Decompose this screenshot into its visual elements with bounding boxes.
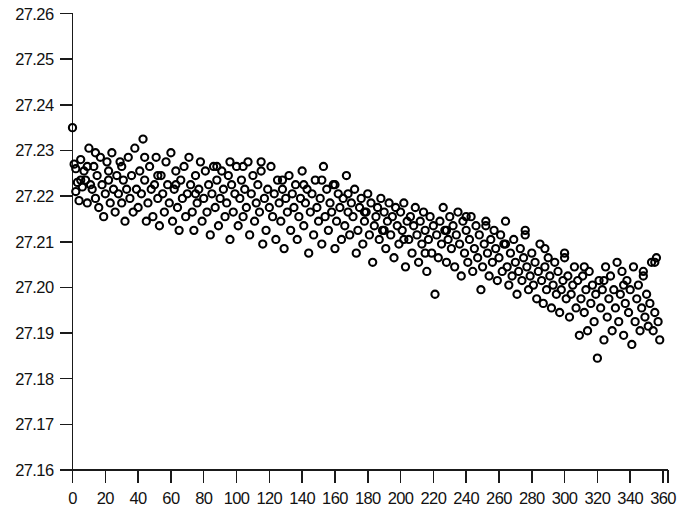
data-point xyxy=(239,213,246,220)
data-point xyxy=(180,163,187,170)
data-point xyxy=(377,195,384,202)
y-tick-label: 27.22 xyxy=(15,187,54,205)
data-point xyxy=(92,195,99,202)
data-point xyxy=(576,332,583,339)
data-point xyxy=(638,304,645,311)
data-point xyxy=(102,190,109,197)
data-point xyxy=(253,199,260,206)
data-point xyxy=(123,186,130,193)
data-point xyxy=(262,227,269,234)
data-point xyxy=(187,181,194,188)
data-point xyxy=(577,295,584,302)
data-point xyxy=(399,227,406,234)
data-point xyxy=(618,268,625,275)
data-point xyxy=(167,149,174,156)
x-tick-label: 120 xyxy=(256,489,282,507)
data-point xyxy=(197,158,204,165)
data-point xyxy=(581,263,588,270)
data-point xyxy=(551,259,558,266)
data-point xyxy=(422,227,429,234)
data-point xyxy=(654,318,661,325)
data-point xyxy=(448,245,455,252)
data-point xyxy=(136,167,143,174)
data-point xyxy=(272,236,279,243)
data-point xyxy=(341,222,348,229)
data-point xyxy=(207,231,214,238)
data-point xyxy=(205,181,212,188)
data-point xyxy=(651,309,658,316)
data-point xyxy=(443,259,450,266)
data-point xyxy=(541,263,548,270)
data-point xyxy=(620,332,627,339)
data-point xyxy=(325,227,332,234)
data-point xyxy=(515,268,522,275)
data-point xyxy=(92,149,99,156)
data-point xyxy=(213,177,220,184)
data-point xyxy=(528,250,535,257)
data-point xyxy=(108,149,115,156)
data-point xyxy=(238,177,245,184)
data-point xyxy=(530,282,537,289)
data-point xyxy=(477,286,484,293)
data-point xyxy=(641,313,648,320)
data-point xyxy=(568,291,575,298)
data-point xyxy=(281,245,288,252)
data-point xyxy=(454,208,461,215)
data-point xyxy=(94,172,101,179)
data-point xyxy=(584,327,591,334)
data-point xyxy=(599,286,606,293)
data-point xyxy=(202,167,209,174)
x-axis: 0204060801001201401601802002202402602803… xyxy=(60,460,677,507)
data-point xyxy=(349,213,356,220)
x-tick-label: 40 xyxy=(130,489,148,507)
data-point xyxy=(295,213,302,220)
data-point xyxy=(269,213,276,220)
y-tick-label: 27.23 xyxy=(15,141,54,159)
data-point xyxy=(558,286,565,293)
data-point xyxy=(572,304,579,311)
data-point xyxy=(510,236,517,243)
data-point xyxy=(300,222,307,229)
data-point xyxy=(502,218,509,225)
data-point xyxy=(230,208,237,215)
y-tick-label: 27.21 xyxy=(15,233,54,251)
data-point xyxy=(417,218,424,225)
data-point xyxy=(433,231,440,238)
data-point xyxy=(277,218,284,225)
data-point xyxy=(313,204,320,211)
y-tick-label: 27.19 xyxy=(15,324,54,342)
data-point xyxy=(436,218,443,225)
data-point xyxy=(141,177,148,184)
data-point xyxy=(162,158,169,165)
data-point xyxy=(495,254,502,261)
data-point xyxy=(527,272,534,279)
data-point xyxy=(159,190,166,197)
data-point xyxy=(105,177,112,184)
data-point xyxy=(571,263,578,270)
data-point xyxy=(115,190,122,197)
data-point xyxy=(440,204,447,211)
data-point xyxy=(220,186,227,193)
data-point xyxy=(548,304,555,311)
data-point xyxy=(517,245,524,252)
data-point xyxy=(369,259,376,266)
data-point xyxy=(461,250,468,257)
data-point xyxy=(615,318,622,325)
data-point xyxy=(484,250,491,257)
y-tick-label: 27.24 xyxy=(15,96,54,114)
data-point xyxy=(554,268,561,275)
data-point xyxy=(226,236,233,243)
x-tick-label: 300 xyxy=(552,489,578,507)
data-point xyxy=(308,190,315,197)
data-point xyxy=(451,263,458,270)
data-point xyxy=(587,300,594,307)
data-point xyxy=(318,240,325,247)
data-point xyxy=(258,158,265,165)
data-point xyxy=(597,304,604,311)
data-point xyxy=(144,199,151,206)
data-point xyxy=(550,282,557,289)
data-point xyxy=(243,204,250,211)
data-point xyxy=(507,250,514,257)
data-point xyxy=(630,263,637,270)
data-point xyxy=(609,327,616,334)
